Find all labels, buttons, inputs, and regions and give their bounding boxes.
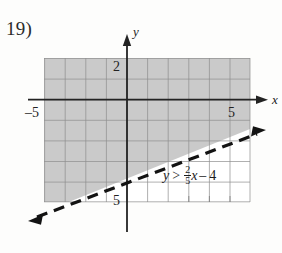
inequality-relation: > bbox=[172, 168, 180, 183]
inequality-label: y>25x–4 bbox=[163, 165, 216, 186]
x-axis-label: x bbox=[271, 92, 278, 107]
inequality-operator: – bbox=[199, 168, 206, 183]
inequality-constant: 4 bbox=[209, 168, 216, 183]
boundary-arrow-right bbox=[251, 126, 266, 136]
inequality-variable: x bbox=[191, 168, 197, 183]
y-tick-label-top: 2 bbox=[113, 59, 120, 74]
graph-figure: x y –5 5 2 5 bbox=[0, 0, 282, 253]
x-tick-label-right: 5 bbox=[228, 105, 235, 120]
y-axis-label: y bbox=[131, 24, 139, 39]
graph-svg: x y –5 5 2 5 bbox=[0, 0, 282, 253]
worksheet-page: 19) bbox=[0, 0, 282, 253]
boundary-arrow-left bbox=[28, 215, 43, 225]
y-tick-label-bottom: 5 bbox=[113, 193, 120, 208]
x-tick-label-left: –5 bbox=[24, 105, 39, 120]
inequality-lhs: y bbox=[163, 168, 169, 183]
